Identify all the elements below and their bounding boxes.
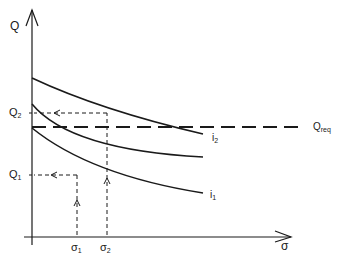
diagram-canvas [0,0,341,261]
q2-label-base: Q [9,106,18,118]
x-axis-label: σ [281,240,288,252]
curve-i1 [32,128,203,193]
i2-label-sub: 2 [214,137,218,144]
sigma1-label: σ1 [71,242,82,254]
x-axis [24,231,291,242]
y-axis-label: Q [10,20,19,32]
sigma2-label: σ2 [100,242,111,254]
curve-i2-label: i2 [212,133,218,144]
q1-projection [34,175,77,235]
q1-label-base: Q [9,168,18,180]
q1-label: Q1 [9,169,21,181]
sigma2-label-sub: 2 [107,247,111,254]
curve-middle [32,104,203,157]
curve-i1-label: i1 [210,190,216,201]
sigma2-label-base: σ [100,241,107,253]
q-req-label-base: Q [313,121,321,132]
q-req-label: Qreq [313,122,331,133]
q2-label-sub: 2 [18,112,22,119]
q-req-label-sub: req [321,126,331,133]
q2-label: Q2 [9,107,21,119]
i1-label-sub: 1 [212,194,216,201]
sigma1-label-base: σ [71,241,78,253]
sigma1-label-sub: 1 [78,247,82,254]
q1-label-sub: 1 [18,174,22,181]
